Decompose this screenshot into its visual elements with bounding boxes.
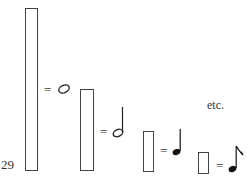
half-note-icon — [112, 106, 126, 140]
duration-bar-quarter — [143, 131, 154, 172]
duration-bar-whole — [25, 8, 38, 171]
equals-sign: = — [160, 143, 167, 159]
quarter-note-icon — [172, 128, 184, 158]
eighth-note-icon — [228, 144, 246, 174]
etc-text: etc. — [207, 98, 224, 113]
equals-sign: = — [44, 82, 51, 98]
equals-sign: = — [216, 158, 223, 174]
duration-bar-eighth — [198, 152, 209, 174]
whole-note-icon — [57, 84, 71, 94]
equals-sign: = — [100, 124, 107, 140]
figure-number: 29 — [1, 157, 14, 173]
duration-bar-half — [80, 89, 94, 171]
